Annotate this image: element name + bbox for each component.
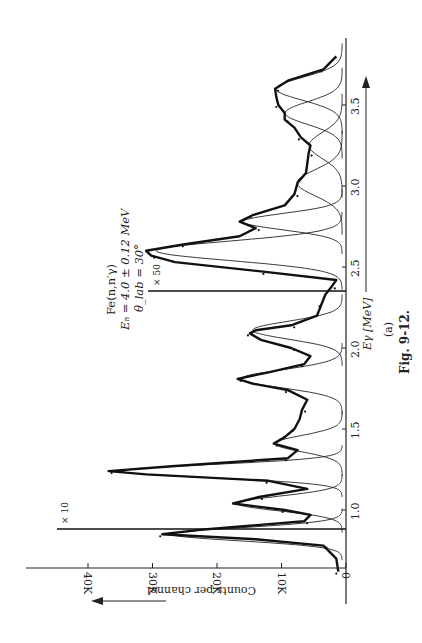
data-point xyxy=(247,334,249,336)
data-point xyxy=(287,121,289,123)
data-point xyxy=(249,216,251,218)
data-point xyxy=(291,430,293,432)
data-point xyxy=(258,229,260,231)
energy-annotation: Eₙ = 4.0 ± 0.12 MeV xyxy=(118,209,132,330)
data-point xyxy=(153,257,155,259)
data-point xyxy=(293,349,295,351)
data-point xyxy=(325,547,327,549)
data-point xyxy=(296,195,298,197)
data-point xyxy=(334,287,336,289)
data-point xyxy=(303,174,305,176)
energy-tick-label: 2.5 xyxy=(349,260,362,278)
data-point xyxy=(159,535,161,537)
spectrum-chart xyxy=(0,0,422,643)
energy-tick-label: 3.0 xyxy=(349,179,362,197)
component-curve xyxy=(309,94,342,198)
data-point xyxy=(276,445,278,447)
data-point xyxy=(320,70,322,72)
data-point xyxy=(298,138,300,140)
data-point xyxy=(277,90,279,92)
x10-label: × 10 xyxy=(58,502,72,524)
data-point xyxy=(304,411,306,413)
panel-label: (a) xyxy=(382,322,396,337)
data-points xyxy=(111,70,338,574)
reaction-label: Fe(n,n′γ) xyxy=(104,264,118,315)
data-point xyxy=(285,391,287,393)
component-curve xyxy=(285,68,342,159)
data-point xyxy=(282,511,284,513)
data-point xyxy=(293,326,295,328)
energy-tick-label: 1.5 xyxy=(349,422,362,440)
angle-annotation: θ_lab = 30° xyxy=(132,244,146,312)
component-curve xyxy=(253,295,342,366)
fit-component-curves xyxy=(121,43,342,560)
counts-axis-label: Counts per channel xyxy=(147,583,256,597)
data-point xyxy=(261,498,263,500)
component-curve xyxy=(243,189,342,254)
figure-caption: Fig. 9-12. xyxy=(398,310,412,374)
component-curve xyxy=(297,131,342,235)
data-point xyxy=(182,245,184,247)
energy-tick-label: 1.0 xyxy=(349,503,362,521)
energy-axis-label: Eγ [MeV] xyxy=(361,298,375,350)
fit-curve xyxy=(109,56,339,571)
data-point xyxy=(318,305,320,307)
data-point xyxy=(285,459,287,461)
counts-tick-label: 0 xyxy=(339,572,352,579)
counts-tick-label: 40K xyxy=(81,572,94,594)
component-curve xyxy=(241,343,342,414)
data-point xyxy=(335,573,337,575)
data-point xyxy=(266,482,268,484)
data-point xyxy=(311,155,313,157)
counts-ticks xyxy=(88,563,346,568)
energy-arrowhead-icon xyxy=(362,76,370,88)
data-point xyxy=(111,472,113,474)
component-curve xyxy=(275,411,342,476)
counts-tick-label: 10K xyxy=(275,572,288,594)
data-point xyxy=(240,380,242,382)
data-point xyxy=(301,365,303,367)
data-point xyxy=(262,273,264,275)
energy-tick-label: 3.5 xyxy=(349,98,362,116)
counts-arrowhead-icon xyxy=(91,597,103,605)
x50-label: × 50 xyxy=(150,264,164,286)
data-point xyxy=(306,522,308,524)
data-point xyxy=(275,106,277,108)
